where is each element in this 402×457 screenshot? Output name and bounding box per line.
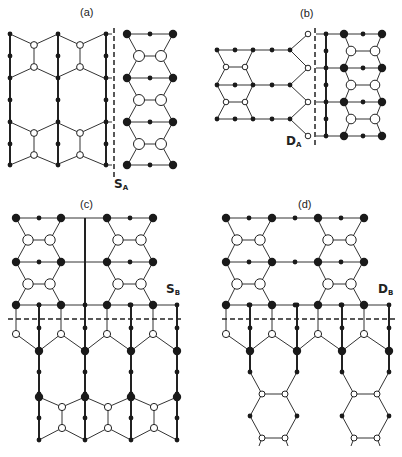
small-atom-icon <box>339 216 344 221</box>
small-atom-icon <box>361 66 366 71</box>
open-atom-icon <box>351 435 357 441</box>
open-atom-icon <box>104 403 111 410</box>
small-atom-icon <box>251 48 256 53</box>
small-atom-icon <box>340 370 345 375</box>
small-atom-icon <box>215 83 220 88</box>
small-atom-icon <box>56 32 61 37</box>
small-atom-icon <box>37 260 42 265</box>
large-atom-icon <box>12 214 20 222</box>
open-atom-icon <box>255 235 265 245</box>
small-atom-icon <box>247 216 252 221</box>
large-atom-icon <box>149 258 157 266</box>
large-atom-icon <box>314 258 322 266</box>
small-atom-icon <box>288 83 293 88</box>
open-atom-icon <box>282 391 288 397</box>
small-atom-icon <box>270 83 275 88</box>
small-atom-icon <box>324 32 329 37</box>
large-atom-icon <box>314 214 322 222</box>
small-atom-icon <box>387 303 392 308</box>
open-atom-icon <box>259 435 265 441</box>
small-atom-icon <box>129 303 134 308</box>
small-atom-icon <box>56 163 61 168</box>
large-atom-icon <box>378 30 386 38</box>
small-atom-icon <box>288 117 293 122</box>
small-atom-icon <box>340 303 345 308</box>
small-atom-icon <box>129 438 134 443</box>
open-atom-icon <box>346 80 356 90</box>
open-atom-icon <box>351 391 357 397</box>
open-atom-icon <box>282 435 288 441</box>
small-atom-icon <box>104 120 109 125</box>
small-atom-icon <box>248 326 253 331</box>
small-atom-icon <box>8 32 13 37</box>
small-atom-icon <box>56 98 61 103</box>
small-atom-icon <box>324 117 329 122</box>
large-atom-icon <box>169 118 177 126</box>
small-atom-icon <box>37 370 42 375</box>
open-atom-icon <box>255 279 265 289</box>
open-atom-icon <box>346 279 356 289</box>
small-atom-icon <box>248 370 253 375</box>
small-atom-icon <box>37 416 42 421</box>
large-atom-icon <box>35 347 43 355</box>
small-atom-icon <box>293 216 298 221</box>
small-atom-icon <box>247 260 252 265</box>
small-atom-icon <box>83 416 88 421</box>
small-atom-icon <box>83 326 88 331</box>
small-atom-icon <box>56 54 61 59</box>
large-atom-icon <box>378 64 386 72</box>
open-atom-icon <box>103 330 110 337</box>
open-atom-icon <box>223 99 229 105</box>
small-atom-icon <box>56 142 61 147</box>
large-atom-icon <box>123 161 131 169</box>
open-atom-icon <box>45 235 55 245</box>
open-atom-icon <box>136 279 146 289</box>
open-atom-icon <box>323 279 333 289</box>
large-atom-icon <box>123 30 131 38</box>
small-atom-icon <box>8 120 13 125</box>
open-atom-icon <box>370 114 380 124</box>
large-atom-icon <box>173 393 181 401</box>
small-atom-icon <box>361 100 366 105</box>
open-atom-icon <box>58 403 65 410</box>
open-atom-icon <box>374 391 380 397</box>
open-atom-icon <box>223 64 229 70</box>
small-atom-icon <box>175 416 180 421</box>
large-atom-icon <box>169 30 177 38</box>
small-atom-icon <box>387 370 392 375</box>
small-atom-icon <box>215 117 220 122</box>
large-atom-icon <box>293 347 301 355</box>
small-atom-icon <box>129 370 134 375</box>
small-atom-icon <box>83 370 88 375</box>
large-atom-icon <box>338 347 346 355</box>
open-atom-icon <box>134 51 145 62</box>
large-atom-icon <box>173 347 181 355</box>
small-atom-icon <box>233 48 238 53</box>
open-atom-icon <box>314 330 321 337</box>
small-atom-icon <box>148 163 153 168</box>
large-atom-icon <box>127 393 135 401</box>
small-atom-icon <box>83 438 88 443</box>
open-atom-icon <box>136 235 146 245</box>
large-atom-icon <box>57 258 65 266</box>
large-atom-icon <box>127 347 135 355</box>
small-atom-icon <box>270 117 275 122</box>
open-atom-icon <box>156 51 167 62</box>
large-atom-icon <box>222 214 230 222</box>
small-atom-icon <box>248 414 253 419</box>
small-atom-icon <box>295 414 300 419</box>
open-atom-icon <box>222 330 229 337</box>
large-atom-icon <box>314 301 322 309</box>
small-atom-icon <box>104 163 109 168</box>
small-atom-icon <box>104 142 109 147</box>
small-atom-icon <box>361 32 366 37</box>
small-atom-icon <box>339 260 344 265</box>
small-atom-icon <box>270 48 275 53</box>
large-atom-icon <box>169 74 177 82</box>
small-atom-icon <box>148 32 153 37</box>
small-atom-icon <box>324 66 329 71</box>
open-atom-icon <box>268 330 275 337</box>
small-atom-icon <box>8 76 13 81</box>
small-atom-icon <box>387 414 392 419</box>
open-atom-icon <box>31 64 38 71</box>
